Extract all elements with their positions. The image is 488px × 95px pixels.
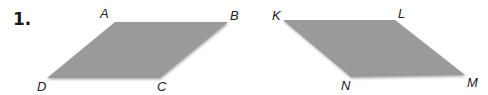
- parallelogram-abcd: [47, 22, 228, 78]
- vertex-label-b: B: [230, 8, 239, 23]
- vertex-label-m: M: [467, 75, 478, 90]
- vertex-label-k: K: [272, 8, 281, 23]
- vertex-label-l: L: [398, 6, 405, 21]
- vertex-label-n: N: [341, 78, 350, 93]
- vertex-label-a: A: [100, 6, 109, 21]
- vertex-label-c: C: [157, 79, 166, 94]
- vertex-label-d: D: [37, 79, 46, 94]
- diagram-canvas: [0, 0, 488, 95]
- parallelogram-klmn: [283, 20, 465, 77]
